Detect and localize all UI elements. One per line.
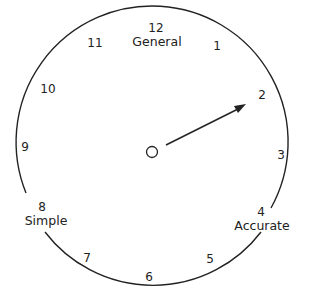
label-accurate: Accurate — [234, 219, 289, 232]
hour-1: 1 — [213, 40, 221, 53]
dial-arc-bottom — [45, 232, 261, 285]
label-general: General — [132, 35, 181, 48]
label-simple: Simple — [25, 214, 68, 227]
center-pivot — [147, 147, 158, 158]
hour-2: 2 — [258, 89, 266, 102]
hour-7: 7 — [83, 252, 91, 265]
hour-10: 10 — [40, 83, 55, 96]
hour-11: 11 — [87, 37, 102, 50]
pointer-arrow-shaft — [166, 109, 238, 145]
hour-9: 9 — [21, 141, 29, 154]
hour-3: 3 — [277, 149, 285, 162]
hour-6: 6 — [145, 271, 153, 284]
hour-5: 5 — [206, 253, 214, 266]
pointer-arrow-head — [234, 104, 246, 113]
